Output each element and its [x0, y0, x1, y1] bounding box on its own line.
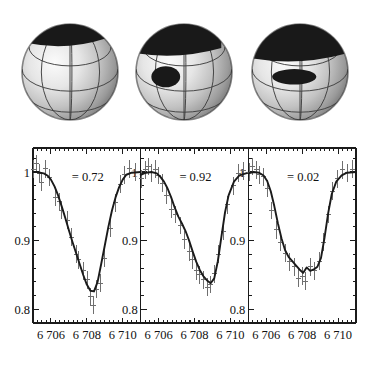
- x-tick-label: 6 706: [37, 328, 65, 342]
- y-tick-label: 0.9: [14, 234, 30, 248]
- phase-annotation: = 0.02: [287, 170, 319, 184]
- sphere-phase-0.02: [244, 12, 356, 130]
- y-tick-label: 1: [239, 166, 245, 180]
- x-tick-label: 6 708: [180, 328, 208, 342]
- y-tick-label: 0.8: [230, 303, 246, 317]
- y-tick-label: 1: [24, 166, 30, 180]
- synthetic-profile: [141, 172, 249, 283]
- dark-spot: [133, 20, 221, 56]
- dark-spot-lobe: [151, 66, 180, 87]
- x-tick-label: 6 708: [288, 328, 316, 342]
- sphere-phase-0.72: [14, 12, 126, 130]
- dark-spot: [253, 20, 345, 61]
- line-profile-panels: 6 7066 7086 7106 7066 7086 7106 7066 708…: [0, 142, 369, 368]
- sphere-phase-0.92: [128, 12, 240, 130]
- dark-spot-lobe: [272, 69, 316, 84]
- phase-annotation: = 0.72: [72, 170, 104, 184]
- y-tick-label: 0.8: [14, 303, 30, 317]
- x-tick-label: 6 710: [324, 328, 352, 342]
- x-tick-label: 6 710: [216, 328, 244, 342]
- y-tick-label: 0.9: [230, 234, 246, 248]
- x-tick-label: 6 708: [73, 328, 101, 342]
- y-tick-label: 0.8: [122, 303, 138, 317]
- phase-annotation: = 0.92: [179, 170, 211, 184]
- synthetic-profile: [33, 172, 141, 291]
- synthetic-profile: [248, 172, 356, 273]
- doppler-imaging-figure: 6 7066 7086 7106 7066 7086 7106 7066 708…: [0, 0, 369, 368]
- x-tick-label: 6 706: [145, 328, 173, 342]
- x-tick-label: 6 706: [252, 328, 280, 342]
- stellar-surface-maps: [0, 0, 369, 140]
- x-tick-label: 6 710: [109, 328, 137, 342]
- y-tick-label: 0.9: [122, 234, 138, 248]
